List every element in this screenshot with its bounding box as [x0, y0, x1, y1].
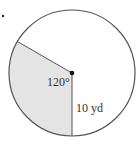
center-point [70, 71, 75, 76]
stray-dot [2, 15, 4, 17]
circle-sector-diagram: 120° 10 yd [0, 0, 139, 144]
radius-label: 10 yd [76, 101, 103, 115]
angle-label: 120° [47, 75, 70, 89]
